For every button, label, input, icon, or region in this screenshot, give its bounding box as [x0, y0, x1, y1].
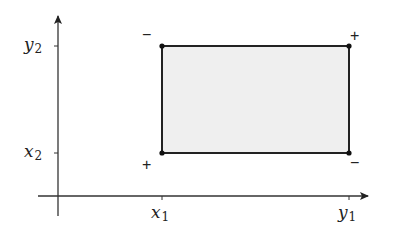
region-rectangle — [162, 46, 349, 153]
tick-label-x2: x2 — [24, 141, 42, 163]
tick-label-y1: y1 — [337, 202, 356, 224]
tick-label-x1: x1 — [151, 202, 169, 224]
tick-label-y2: y2 — [23, 34, 42, 56]
sign-bottom-right: − — [350, 154, 359, 171]
diagram: − + + − x1 y1 y2 x2 — [0, 0, 409, 231]
sign-bottom-left: + — [142, 156, 151, 173]
corner-point-top-left — [159, 43, 164, 48]
sign-top-right: + — [350, 27, 359, 44]
corner-point-top-right — [346, 43, 351, 48]
sign-top-left: − — [142, 26, 151, 43]
corner-point-bottom-left — [159, 150, 164, 155]
